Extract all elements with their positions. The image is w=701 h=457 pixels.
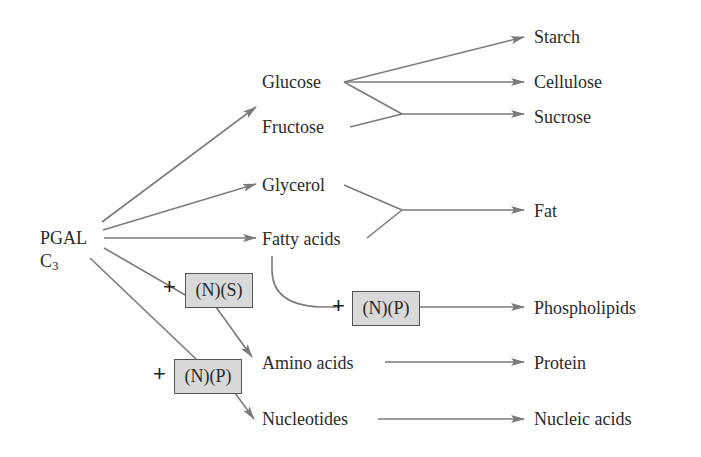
pgal-label: PGAL [40,229,87,247]
arrow-pgal-to-glycerol [103,184,256,230]
np-phospholipid-box-label: (N)(P) [363,298,410,319]
pathway-diagram [0,0,701,457]
cellulose-label: Cellulose [534,73,602,91]
line-glucose-to-sucrose [344,82,402,114]
glycerol-label: Glycerol [262,176,325,194]
arrow-pgal-to-glucose [102,107,256,222]
curve-fatty-acids-to-np [272,256,340,307]
arrow-glucose-to-starch [344,37,524,82]
plus-np-phospholipid: + [332,295,345,317]
nucleotides-label: Nucleotides [262,410,348,428]
ns-box-label: (N)(S) [196,280,243,301]
nucleic-acids-label: Nucleic acids [534,410,631,428]
glucose-label: Glucose [262,73,321,91]
np-nucleotide-box: (N)(P) [174,359,242,394]
arrow-ns-to-amino-acids [216,307,252,357]
line-fatty-acids-to-fat [367,210,402,238]
starch-label: Starch [534,28,580,46]
line-fructose-to-sucrose [350,114,402,127]
fructose-label: Fructose [262,118,324,136]
ns-box: (N)(S) [185,273,253,308]
c3-base: C [40,251,52,271]
line-glycerol-to-fat [344,185,402,210]
c3-subscript: 3 [52,258,59,273]
np-nucleotide-box-label: (N)(P) [185,366,232,387]
np-phospholipid-box: (N)(P) [352,291,420,326]
plus-np-nucleotide: + [153,363,166,385]
c3-label: C3 [40,252,59,272]
protein-label: Protein [534,354,586,372]
line-pgal-to-np [90,258,196,359]
phospholipids-label: Phospholipids [534,299,636,317]
sucrose-label: Sucrose [534,108,591,126]
fat-label: Fat [534,202,557,220]
plus-ns: + [163,276,176,298]
arrow-np-to-nucleotides [235,393,254,419]
fatty-acids-label: Fatty acids [262,230,341,248]
amino-acids-label: Amino acids [262,354,354,372]
